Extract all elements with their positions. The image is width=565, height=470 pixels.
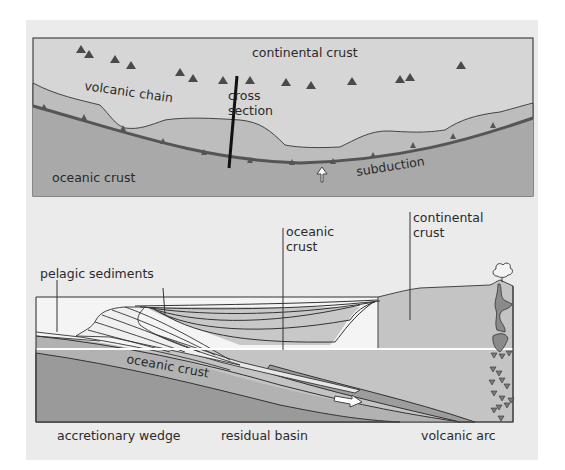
subduction-diagram: continental crust volcanic chain cross s… [0,0,565,470]
bottom-panel-cross-section: pelagic sediments oceanic crust continen… [36,210,514,443]
volcano-eruption-icon [493,263,512,282]
label-section: section [228,103,273,118]
label-pelagic-sediments: pelagic sediments [40,266,154,281]
label-oceanic-top: oceanic [286,224,334,239]
label-continental-crust-2: crust [413,225,444,240]
label-crust-top: crust [286,239,317,254]
label-residual-basin: residual basin [221,428,308,443]
label-continental-crust: continental crust [252,45,358,60]
label-volcanic-arc: volcanic arc [421,428,496,443]
top-panel-map-view: continental crust volcanic chain cross s… [33,38,533,196]
label-accretionary-wedge: accretionary wedge [57,428,181,443]
label-cross: cross [228,88,260,103]
label-oceanic-crust-top: oceanic crust [52,170,136,185]
label-continental: continental [413,210,483,225]
